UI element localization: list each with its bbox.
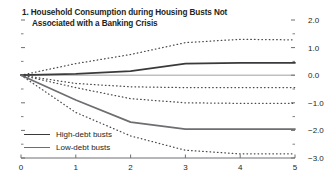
legend-label-low-debt-busts: Low-debt busts (56, 143, 110, 152)
series-low-debt-busts (21, 75, 295, 129)
series-high-debt-busts-lower-confidence-band (21, 75, 295, 87)
y-tick-label: −3.0 (308, 154, 324, 163)
series-high-debt-busts-upper-confidence-band (21, 39, 295, 75)
chart-figure: 1. Household Consumption during Housing … (0, 0, 336, 189)
series-low-debt-busts-upper-confidence-band (21, 75, 295, 103)
legend-item-low-debt-busts: Low-debt busts (24, 141, 112, 154)
legend-swatch-low-debt-busts (24, 147, 50, 148)
legend-label-high-debt-busts: High-debt busts (56, 130, 112, 139)
x-tick-label: 0 (19, 163, 23, 172)
y-tick-label: 0.0 (308, 71, 319, 80)
x-tick-label: 5 (293, 163, 297, 172)
x-tick-label: 1 (74, 163, 78, 172)
x-tick-label: 3 (183, 163, 187, 172)
chart-legend: High-debt busts Low-debt busts (24, 128, 112, 154)
series-high-debt-busts (21, 63, 295, 75)
y-tick-label: 1.0 (308, 43, 319, 52)
plot-area (0, 0, 336, 189)
legend-swatch-high-debt-busts (24, 134, 50, 135)
y-tick-label: 2.0 (308, 16, 319, 25)
data-lines (21, 63, 295, 129)
x-tick-label: 4 (238, 163, 242, 172)
y-tick-label: −1.0 (308, 98, 324, 107)
legend-item-high-debt-busts: High-debt busts (24, 128, 112, 141)
y-tick-label: −2.0 (308, 126, 324, 135)
x-tick-label: 2 (128, 163, 132, 172)
